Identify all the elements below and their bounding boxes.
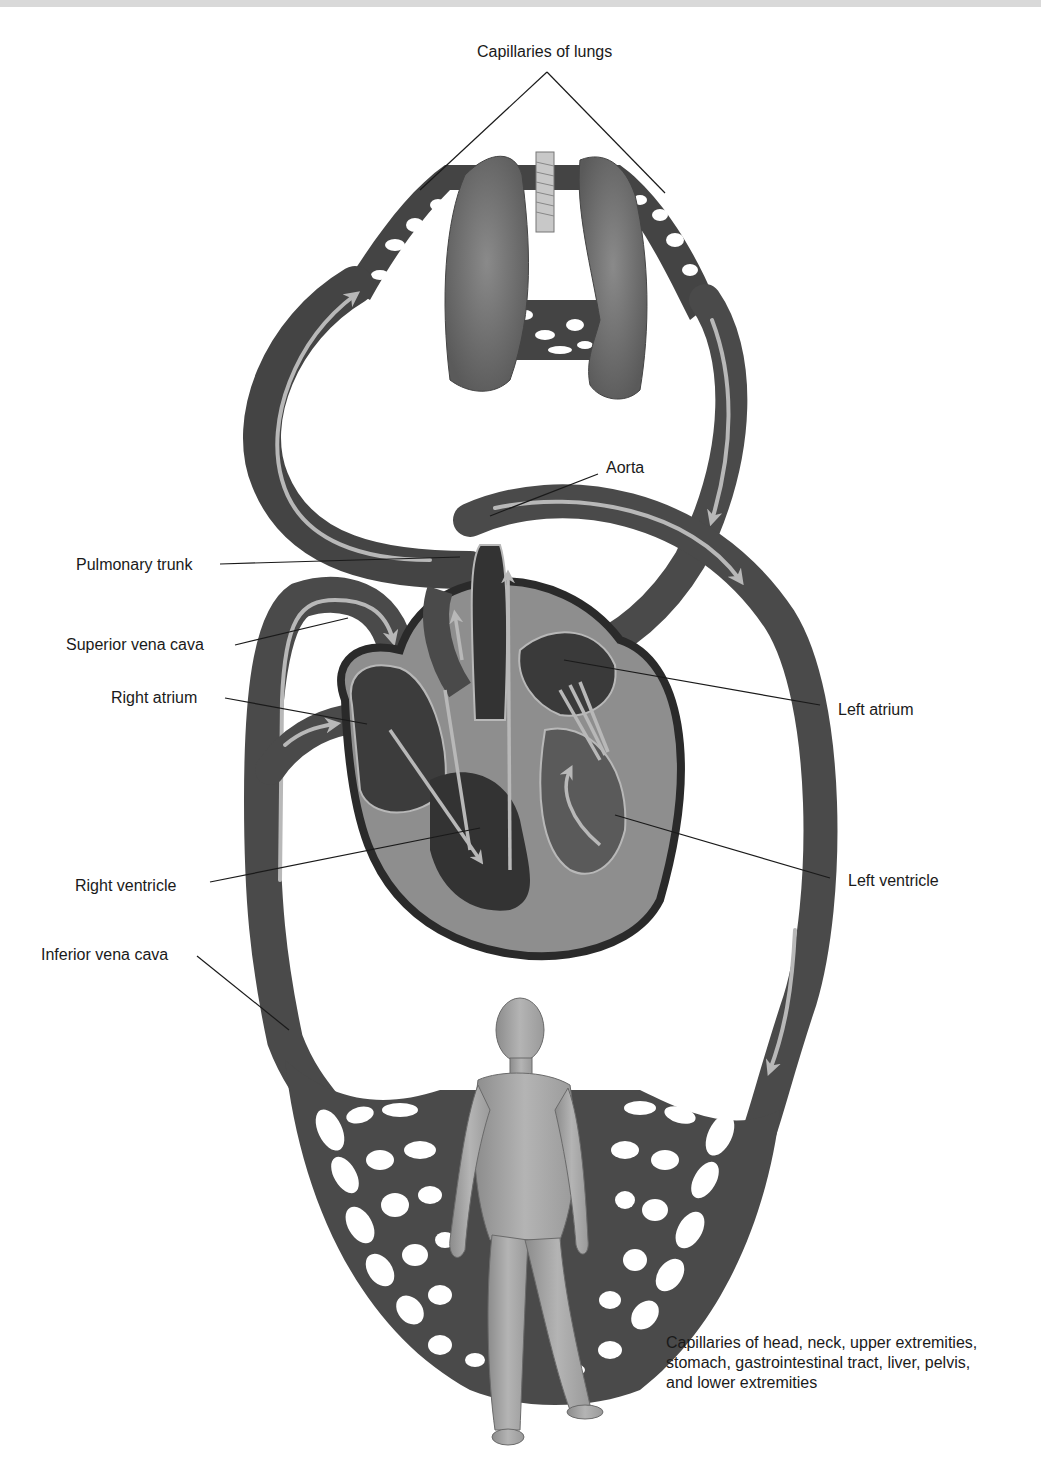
label-pulmonary-trunk: Pulmonary trunk [76,555,193,575]
label-superior-vena-cava: Superior vena cava [66,635,204,655]
label-capillaries-of-lungs: Capillaries of lungs [477,42,612,62]
lung-capillary-network [345,165,715,360]
label-right-atrium: Right atrium [111,688,197,708]
label-systemic-capillaries-line3: and lower extremities [666,1373,1041,1393]
label-left-ventricle: Left ventricle [848,871,939,891]
label-left-atrium: Left atrium [838,700,914,720]
label-systemic-capillaries: Capillaries of head, neck, upper extremi… [666,1333,1041,1393]
label-right-ventricle: Right ventricle [75,876,176,896]
label-aorta: Aorta [606,458,644,478]
label-systemic-capillaries-line1: Capillaries of head, neck, upper extremi… [666,1333,1041,1353]
lungs-icon [445,152,647,399]
label-inferior-vena-cava: Inferior vena cava [41,945,168,965]
label-systemic-capillaries-line2: stomach, gastrointestinal tract, liver, … [666,1353,1041,1373]
circulation-diagram [0,0,1041,1468]
